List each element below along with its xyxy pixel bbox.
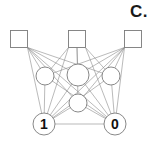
network-diagram-figure: 10 C. <box>0 0 154 145</box>
square-node <box>125 31 142 48</box>
square-node <box>11 31 28 48</box>
nodes-group <box>11 31 142 136</box>
graph-edge <box>28 48 45 125</box>
circle-node <box>36 67 54 85</box>
node-label: 0 <box>111 116 119 132</box>
graph-edge <box>115 48 125 125</box>
panel-label: C. <box>130 2 148 22</box>
circle-node <box>102 67 120 85</box>
square-node <box>69 31 86 48</box>
graph-edge <box>86 48 116 125</box>
circle-node <box>69 94 87 112</box>
node-label: 1 <box>40 116 48 132</box>
graph-edge <box>28 48 116 125</box>
circle-node <box>67 64 89 86</box>
